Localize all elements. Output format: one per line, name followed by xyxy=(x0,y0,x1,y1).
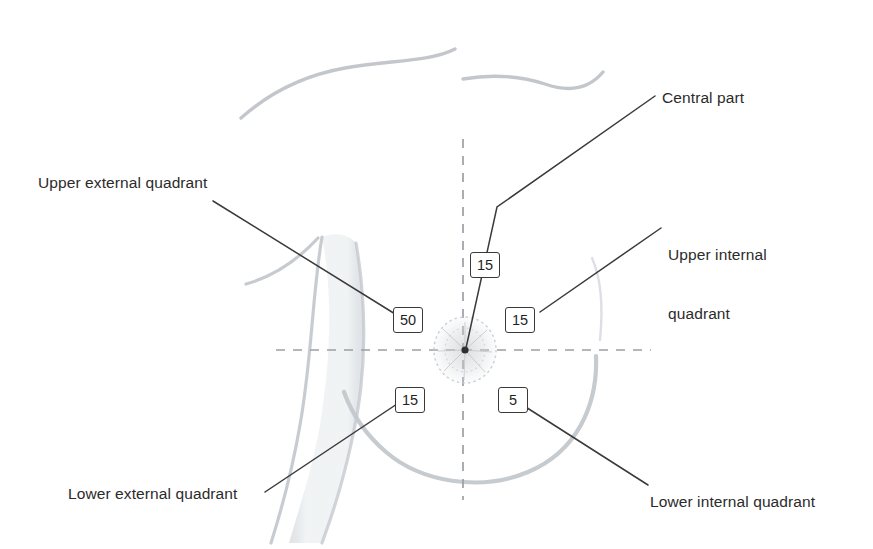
label-upper-external-quadrant: Upper external quadrant xyxy=(38,173,207,193)
label-upper-internal-quadrant-line1: Upper internal xyxy=(668,245,767,265)
clavicle-outline xyxy=(241,49,603,118)
value-box-lower-external: 15 xyxy=(395,387,425,413)
label-upper-internal-quadrant-line2: quadrant xyxy=(668,304,767,324)
areola-nipple xyxy=(433,316,497,384)
leader-lines xyxy=(213,96,661,492)
value-box-upper-internal: 15 xyxy=(505,307,535,333)
label-upper-internal-quadrant: Upper internal quadrant xyxy=(668,205,767,364)
value-box-lower-internal: 5 xyxy=(498,387,528,413)
label-central-part: Central part xyxy=(662,88,744,108)
breast-quadrant-diagram: Central part Upper external quadrant Upp… xyxy=(0,0,873,549)
label-lower-external-quadrant: Lower external quadrant xyxy=(68,484,237,504)
nipple-point xyxy=(461,346,468,353)
label-lower-internal-quadrant: Lower internal quadrant xyxy=(650,492,815,512)
leader-central-part xyxy=(466,96,655,348)
leader-upper-external xyxy=(213,201,400,317)
torso-arm-contour xyxy=(246,234,364,543)
value-box-upper-external: 50 xyxy=(393,307,423,333)
value-box-central-part: 15 xyxy=(470,252,500,278)
